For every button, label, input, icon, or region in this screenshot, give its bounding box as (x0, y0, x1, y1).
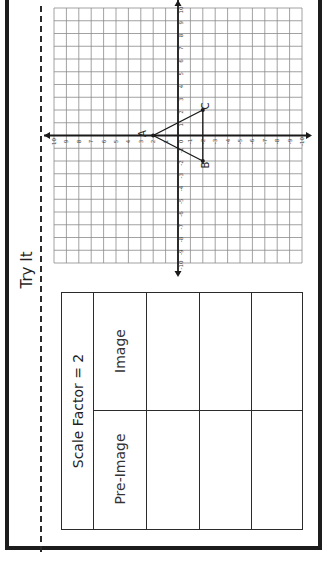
column-header-pre-image: Pre-Image (112, 433, 128, 504)
arrow-icon (44, 132, 50, 139)
arrow-icon (175, 271, 182, 277)
y-tick-label: 5 (113, 139, 119, 143)
x-tick-label: 4 (178, 84, 184, 88)
y-tick-label: -9 (287, 138, 293, 144)
cell-row1-image[interactable] (147, 293, 199, 410)
x-tick-label: 6 (178, 59, 184, 63)
x-tick-label: -10 (178, 260, 184, 269)
scale-factor-table: Scale Factor = 2 Pre-Image Image (61, 292, 303, 530)
vertex-label: C (200, 102, 211, 109)
y-tick-label: -8 (274, 138, 280, 144)
x-tick-label: -7 (178, 224, 184, 230)
y-tick-label: -7 (262, 138, 268, 144)
y-tick-label: 3 (138, 139, 144, 143)
x-tick-label: -4 (178, 185, 184, 191)
y-tick-label: -10 (299, 137, 305, 146)
x-tick-label: 3 (178, 97, 184, 101)
x-tick-label: 9 (178, 21, 184, 25)
y-tick-label: -3 (212, 138, 218, 144)
x-tick-label: -3 (178, 173, 184, 179)
table-title: Scale Factor = 2 (70, 354, 86, 469)
y-tick-label: -6 (249, 138, 255, 144)
x-tick-label: 2 (178, 110, 184, 114)
cell-row3-image[interactable] (252, 293, 302, 410)
vertex-point (151, 134, 155, 138)
x-tick-label: -8 (178, 236, 184, 242)
origin-label: 0 (178, 139, 184, 143)
x-tick-label: 7 (178, 46, 184, 50)
table-divider (93, 293, 94, 529)
cell-row2-pre-image[interactable] (200, 411, 251, 529)
y-tick-label: 9 (63, 139, 69, 143)
cell-row2-image[interactable] (200, 293, 251, 410)
x-tick-label: -6 (178, 211, 184, 217)
y-tick-label: -5 (237, 138, 243, 144)
x-tick-label: -2 (178, 160, 184, 165)
arrow-icon (175, 0, 182, 6)
x-tick-label: 10 (178, 6, 184, 13)
x-tick-label: 8 (178, 33, 184, 37)
vertex-label: A (137, 130, 148, 137)
arrow-icon (306, 132, 312, 139)
y-tick-label: -1 (187, 139, 193, 144)
y-tick-label: 4 (125, 139, 131, 143)
y-tick-label: 7 (88, 139, 94, 143)
y-tick-label: -4 (225, 138, 231, 144)
x-tick-label: -9 (178, 249, 184, 255)
y-tick-label: 2 (150, 140, 156, 144)
y-tick-label: 6 (101, 139, 107, 143)
vertex-label: B (200, 161, 211, 168)
x-tick-label: -5 (178, 198, 184, 204)
column-header-image: Image (112, 329, 128, 373)
cell-row3-pre-image[interactable] (252, 411, 302, 529)
cell-row1-pre-image[interactable] (147, 411, 199, 529)
x-tick-label: 1 (178, 123, 184, 127)
x-tick-label: 5 (178, 72, 184, 76)
y-tick-label: 8 (76, 139, 82, 143)
y-tick-label: 10 (51, 138, 57, 145)
